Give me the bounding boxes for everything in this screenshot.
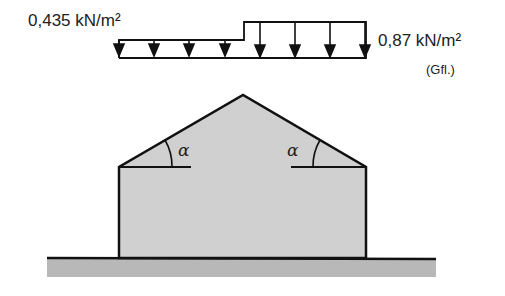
angle-label-right: α — [287, 140, 298, 160]
load-label-left: 0,435 kN/m² — [28, 11, 121, 31]
load-arrows-left — [114, 40, 230, 56]
ground-strip — [47, 258, 436, 277]
load-note-right: (Gfl.) — [426, 62, 455, 77]
angle-label-left: α — [178, 140, 189, 160]
load-label-right: 0,87 kN/m² — [378, 31, 461, 51]
house-body — [119, 95, 366, 258]
load-arrows-right — [255, 22, 370, 57]
